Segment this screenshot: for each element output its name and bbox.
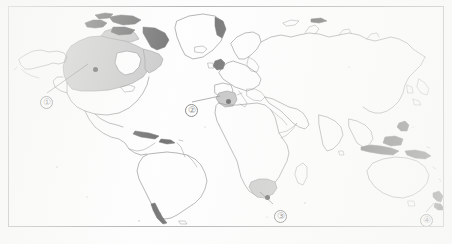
world-map-graphic: .coast { fill: none; stroke: #515151; st… [9,7,444,227]
location-marker-mediterranean[interactable] [226,99,231,104]
location-marker-canada[interactable] [93,67,98,72]
world-map-figure: .coast { fill: none; stroke: #515151; st… [0,0,452,244]
location-marker-south-africa[interactable] [265,195,270,200]
callout-label-4[interactable]: ④ [420,214,433,227]
callout-label-2[interactable]: ② [185,104,198,117]
location-marker-new-zealand[interactable] [438,205,443,210]
map-frame: .coast { fill: none; stroke: #515151; st… [8,6,444,227]
callout-label-3[interactable]: ③ [274,210,287,223]
callout-label-1[interactable]: ① [40,96,53,109]
